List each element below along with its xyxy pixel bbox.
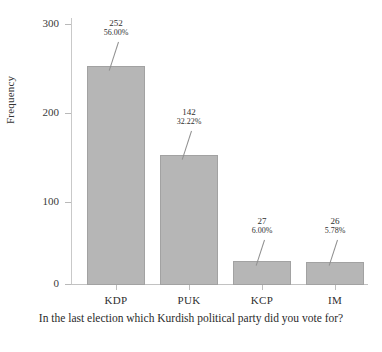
value-label-im: 26 5.78% xyxy=(305,216,365,236)
value-label-puk: 142 32.22% xyxy=(159,107,219,127)
y-tick-label-100-wrap: 100 xyxy=(19,196,59,208)
y-tick-0 xyxy=(65,284,71,285)
bar-kcp[interactable] xyxy=(233,261,291,285)
bar-chart: Frequency 300 200 100 0 xyxy=(0,0,382,352)
category-label-kcp: KCP xyxy=(232,294,292,306)
y-tick-label-200: 200 xyxy=(19,107,59,118)
plot-area: 300 200 100 0 252 56.00% 142 32.22% xyxy=(71,18,368,285)
value-count-kcp: 27 xyxy=(232,216,292,226)
bar-kdp[interactable] xyxy=(87,66,145,285)
y-tick-label-200-wrap: 200 xyxy=(19,107,59,119)
bar-im[interactable] xyxy=(306,262,364,285)
bar-puk[interactable] xyxy=(160,155,218,285)
value-percent-puk: 32.22% xyxy=(159,117,219,126)
y-tick-100 xyxy=(65,202,71,203)
category-label-im: IM xyxy=(305,294,365,306)
y-tick-label-0-wrap: 0 xyxy=(19,278,59,290)
x-axis-title: In the last election which Kurdish polit… xyxy=(38,311,344,325)
value-percent-kcp: 6.00% xyxy=(232,226,292,235)
x-tick-kcp xyxy=(262,285,263,290)
value-count-puk: 142 xyxy=(159,107,219,117)
value-percent-im: 5.78% xyxy=(305,226,365,235)
category-label-kdp: KDP xyxy=(86,294,146,306)
x-tick-im xyxy=(335,285,336,290)
x-tick-kdp xyxy=(116,285,117,290)
value-count-kdp: 252 xyxy=(86,18,146,28)
y-tick-200 xyxy=(65,113,71,114)
value-count-im: 26 xyxy=(305,216,365,226)
y-tick-label-300: 300 xyxy=(19,18,59,29)
value-percent-kdp: 56.00% xyxy=(86,28,146,37)
y-axis-line xyxy=(71,18,72,285)
y-tick-label-300-wrap: 300 xyxy=(19,18,59,30)
value-label-kcp: 27 6.00% xyxy=(232,216,292,236)
y-axis-title: Frequency xyxy=(4,24,20,124)
y-tick-300 xyxy=(65,24,71,25)
category-label-puk: PUK xyxy=(159,294,219,306)
x-tick-puk xyxy=(189,285,190,290)
y-tick-label-100: 100 xyxy=(19,196,59,207)
y-tick-label-0: 0 xyxy=(19,278,59,289)
value-label-kdp: 252 56.00% xyxy=(86,18,146,38)
